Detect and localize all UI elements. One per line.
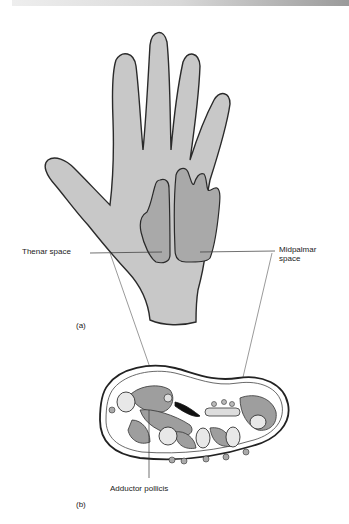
thenar-space-label: Thenar space <box>22 247 71 257</box>
midpalmar-space-label-line2: space <box>279 254 300 264</box>
panel-a-label: (a) <box>76 321 86 331</box>
adductor-pollicis-label: Adductor pollicis <box>110 484 168 494</box>
midpalmar-space <box>174 168 220 262</box>
panel-b-label: (b) <box>76 500 86 510</box>
cross-section <box>100 366 289 464</box>
